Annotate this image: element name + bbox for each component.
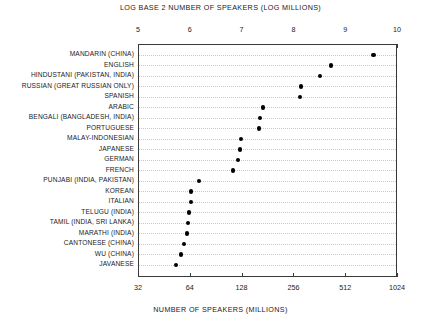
data-point	[258, 116, 262, 120]
gridline	[139, 86, 396, 87]
category-label: TELUGU (INDIA)	[0, 208, 134, 215]
category-label: RUSSIAN (GREAT RUSSIAN ONLY)	[0, 82, 134, 89]
gridline	[139, 128, 396, 129]
gridline	[139, 202, 396, 203]
gridline	[139, 65, 396, 66]
gridline	[139, 170, 396, 171]
category-label: MANDARIN (CHINA)	[0, 50, 134, 57]
data-point	[179, 252, 183, 256]
gridline	[139, 191, 396, 192]
category-label: KOREAN	[0, 187, 134, 194]
category-label: CANTONESE (CHINA)	[0, 239, 134, 246]
bottom-tick-mark	[345, 273, 346, 277]
category-label: SPANISH	[0, 92, 134, 99]
bottom-tick-label: 128	[222, 283, 262, 292]
gridline	[139, 254, 396, 255]
gridline	[139, 223, 396, 224]
gridline	[139, 107, 396, 108]
category-label: HINDUSTANI (PAKISTAN, INDIA)	[0, 71, 134, 78]
bottom-tick-label: 512	[325, 283, 365, 292]
category-label: ITALIAN	[0, 197, 134, 204]
bottom-tick-label: 32	[118, 283, 158, 292]
category-label: PUNJABI (INDIA, PAKISTAN)	[0, 176, 134, 183]
bottom-tick-label: 1024	[377, 283, 417, 292]
data-point	[186, 221, 190, 225]
data-point	[371, 53, 375, 57]
gridline	[139, 149, 396, 150]
data-point	[239, 137, 243, 141]
bottom-tick-mark	[293, 273, 294, 277]
bottom-tick-mark	[397, 273, 398, 277]
category-label: WU (CHINA)	[0, 250, 134, 257]
category-label-group: MANDARIN (CHINA)ENGLISHHINDUSTANI (PAKIS…	[0, 0, 134, 330]
data-point	[174, 263, 178, 267]
data-point	[187, 210, 191, 214]
gridline	[139, 55, 396, 56]
gridline	[139, 233, 396, 234]
data-point	[189, 189, 193, 193]
chart-page: LOG BASE 2 NUMBER OF SPEAKERS (LOG MILLI…	[0, 0, 441, 330]
data-point	[329, 63, 333, 67]
top-tick-label: 10	[377, 25, 417, 34]
category-label: MARATHI (INDIA)	[0, 229, 134, 236]
category-label: FRENCH	[0, 166, 134, 173]
data-point	[318, 74, 322, 78]
category-label: MALAY-INDONESIAN	[0, 134, 134, 141]
top-tick-label: 8	[273, 25, 313, 34]
gridline	[139, 118, 396, 119]
gridline	[139, 97, 396, 98]
gridline	[139, 244, 396, 245]
data-point	[185, 231, 189, 235]
gridline	[139, 139, 396, 140]
data-point	[299, 84, 303, 88]
data-point	[189, 200, 193, 204]
top-tick-label: 9	[325, 25, 365, 34]
gridline	[139, 212, 396, 213]
data-point	[298, 95, 302, 99]
top-tick-label: 7	[222, 25, 262, 34]
data-point	[261, 105, 265, 109]
category-label: ARABIC	[0, 103, 134, 110]
top-tick-mark	[397, 44, 398, 48]
plot-area	[138, 44, 397, 277]
category-label: ENGLISH	[0, 61, 134, 68]
data-point	[182, 242, 186, 246]
gridline	[139, 76, 396, 77]
bottom-tick-mark	[190, 273, 191, 277]
category-label: PORTUGUESE	[0, 124, 134, 131]
gridline	[139, 160, 396, 161]
bottom-tick-mark	[242, 273, 243, 277]
category-label: BENGALI (BANGLADESH, INDIA)	[0, 113, 134, 120]
data-point	[236, 158, 240, 162]
category-label: JAVANESE	[0, 260, 134, 267]
bottom-tick-mark	[138, 273, 139, 277]
bottom-tick-label: 256	[273, 283, 313, 292]
data-point	[197, 179, 201, 183]
category-label: TAMIL (INDIA, SRI LANKA)	[0, 218, 134, 225]
category-label: JAPANESE	[0, 145, 134, 152]
data-point	[231, 168, 235, 172]
gridline	[139, 181, 396, 182]
data-point	[257, 126, 261, 130]
category-label: GERMAN	[0, 155, 134, 162]
bottom-tick-label: 64	[170, 283, 210, 292]
top-tick-label: 6	[170, 25, 210, 34]
bottom-axis-title: NUMBER OF SPEAKERS (MILLIONS)	[0, 305, 441, 314]
data-point	[238, 147, 242, 151]
